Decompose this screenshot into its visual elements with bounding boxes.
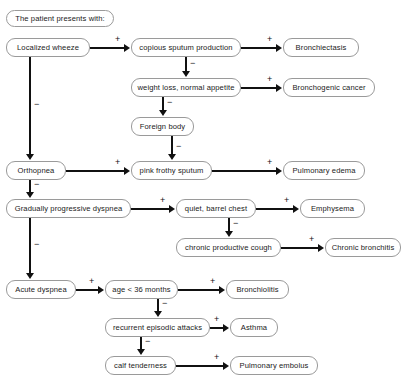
edge-orthopnea-to-grad_dyspnea [29, 180, 31, 192]
node-pulm_embolus: Pulmonary embolus [230, 356, 318, 375]
node-quiet_barrel: quiet, barrel chest [176, 199, 256, 218]
edge-loc_wheeze-to-copious-sign: + [115, 35, 120, 44]
edge-quiet_barrel-to-emphysema-sign: + [284, 196, 289, 205]
edge-acute_dyspnea-to-age36-arrowhead [98, 286, 104, 294]
edge-weightloss-to-bronchogenic [241, 87, 276, 89]
edge-loc_wheeze-to-orthopnea [29, 57, 31, 154]
edge-grad_dyspnea-to-quiet_barrel-arrowhead [169, 205, 175, 213]
node-weightloss: weight loss, normal appetite [131, 78, 241, 97]
edge-weightloss-to-foreign-sign: − [167, 98, 172, 107]
node-pulm_edema: Pulmonary edema [283, 161, 365, 180]
node-chronic_bronch: Chronic bronchitis [325, 238, 401, 257]
edge-recurrent-to-calf-arrowhead [137, 349, 145, 355]
node-foreign: Foreign body [131, 117, 194, 136]
edge-copious-to-weightloss-sign: − [190, 59, 195, 68]
edge-pinkfrothy-to-pulm_edema-sign: + [267, 158, 272, 167]
edge-loc_wheeze-to-orthopnea-arrowhead [26, 154, 34, 160]
edge-recurrent-to-calf [140, 337, 142, 349]
edge-recurrent-to-asthma [210, 327, 223, 329]
edge-quiet_barrel-to-emphysema [256, 208, 293, 210]
edge-age36-to-recurrent-arrowhead [154, 311, 162, 317]
node-recurrent: recurrent episodic attacks [105, 318, 210, 337]
edge-chronic_cough-to-chronic_bronch [281, 247, 318, 249]
edge-age36-to-bronchiolitis-sign: + [210, 277, 215, 286]
edge-acute_dyspnea-to-age36-sign: + [89, 277, 94, 286]
edge-pinkfrothy-to-pulm_edema [212, 170, 276, 172]
edge-grad_dyspnea-to-acute_dyspnea-sign: − [34, 240, 39, 249]
edge-quiet_barrel-to-chronic_cough-sign: − [233, 219, 238, 228]
edge-loc_wheeze-to-copious [90, 47, 124, 49]
edge-acute_dyspnea-to-age36 [76, 289, 98, 291]
edge-loc_wheeze-to-copious-arrowhead [124, 44, 130, 52]
edge-weightloss-to-bronchogenic-arrowhead [276, 84, 282, 92]
node-calf: calf tenderness [105, 356, 176, 375]
edge-age36-to-bronchiolitis-arrowhead [219, 286, 225, 294]
node-bronchiectasis: Bronchiectasis [283, 38, 359, 57]
edge-grad_dyspnea-to-acute_dyspnea-arrowhead [26, 273, 34, 279]
edge-age36-to-recurrent [157, 299, 159, 311]
edge-grad_dyspnea-to-acute_dyspnea [29, 218, 31, 273]
edge-recurrent-to-asthma-arrowhead [223, 324, 229, 332]
edge-grad_dyspnea-to-quiet_barrel [131, 208, 169, 210]
node-age36: age < 36 months [105, 280, 178, 299]
edge-chronic_cough-to-chronic_bronch-sign: + [309, 235, 314, 244]
node-chronic_cough: chronic productive cough [176, 238, 281, 257]
edge-orthopnea-to-grad_dyspnea-arrowhead [26, 192, 34, 198]
edge-foreign-to-pinkfrothy-sign: − [176, 142, 181, 151]
node-copious: copious sputum production [131, 38, 241, 57]
node-emphysema: Emphysema [300, 199, 365, 218]
edge-recurrent-to-calf-sign: − [145, 337, 150, 346]
edge-weightloss-to-foreign-arrowhead [159, 110, 167, 116]
node-pinkfrothy: pink frothy sputum [131, 161, 212, 180]
edge-orthopnea-to-pinkfrothy-sign: + [115, 158, 120, 167]
edge-copious-to-bronchiectasis-arrowhead [276, 44, 282, 52]
edge-copious-to-weightloss-arrowhead [182, 71, 190, 77]
edge-copious-to-bronchiectasis-sign: + [267, 35, 272, 44]
edge-calf-to-pulm_embolus-sign: + [214, 353, 219, 362]
edge-quiet_barrel-to-chronic_cough [228, 218, 230, 231]
node-acute_dyspnea: Acute dyspnea [6, 280, 76, 299]
edge-copious-to-bronchiectasis [241, 47, 276, 49]
edge-calf-to-pulm_embolus-arrowhead [223, 362, 229, 370]
edge-age36-to-bronchiolitis [178, 289, 219, 291]
node-asthma: Asthma [230, 318, 278, 337]
edge-orthopnea-to-pinkfrothy [66, 170, 124, 172]
node-loc_wheeze: Localized wheeze [6, 38, 90, 57]
edge-foreign-to-pinkfrothy [171, 136, 173, 154]
node-orthopnea: Orthopnea [6, 161, 66, 180]
edge-calf-to-pulm_embolus [176, 365, 223, 367]
edge-copious-to-weightloss [185, 57, 187, 71]
edge-orthopnea-to-grad_dyspnea-sign: − [34, 180, 39, 189]
edge-foreign-to-pinkfrothy-arrowhead [168, 154, 176, 160]
node-grad_dyspnea: Gradually progressive dyspnea [6, 199, 131, 218]
edge-recurrent-to-asthma-sign: + [214, 315, 219, 324]
edge-weightloss-to-foreign [162, 97, 164, 110]
node-bronchogenic: Bronchogenic cancer [283, 78, 375, 97]
edge-quiet_barrel-to-emphysema-arrowhead [293, 205, 299, 213]
edge-age36-to-recurrent-sign: − [162, 299, 167, 308]
edge-loc_wheeze-to-orthopnea-sign: − [34, 100, 39, 109]
edge-quiet_barrel-to-chronic_cough-arrowhead [225, 231, 233, 237]
edge-pinkfrothy-to-pulm_edema-arrowhead [276, 167, 282, 175]
node-bronchiolitis: Bronchiolitis [226, 280, 289, 299]
edge-chronic_cough-to-chronic_bronch-arrowhead [318, 244, 324, 252]
edge-weightloss-to-bronchogenic-sign: + [267, 75, 272, 84]
node-header: The patient presents with: [6, 10, 114, 27]
edge-grad_dyspnea-to-quiet_barrel-sign: + [160, 196, 165, 205]
edge-orthopnea-to-pinkfrothy-arrowhead [124, 167, 130, 175]
flowchart-canvas: ++−+−−−++−++−+−++−+−+ The patient presen… [0, 0, 407, 387]
